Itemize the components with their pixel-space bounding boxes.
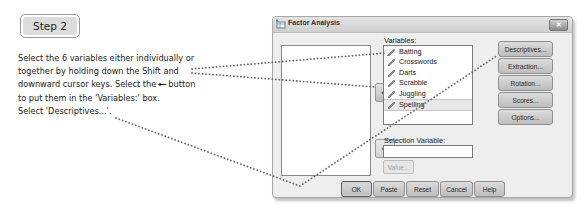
extraction-button[interactable]: Extraction... xyxy=(498,58,553,74)
variable-name: Batting xyxy=(399,47,421,56)
ok-label: OK xyxy=(352,186,362,193)
instruction-line-4: to put them in the 'Variables:' box. xyxy=(18,92,218,105)
variables-list[interactable]: Batting Crosswords Darts Scrabble Juggli… xyxy=(383,45,473,125)
scale-variable-icon xyxy=(387,89,396,98)
factor-analysis-icon xyxy=(276,19,286,29)
variable-item-scrabble[interactable]: Scrabble xyxy=(384,78,472,89)
instruction-line-2: together by holding down the Shift and xyxy=(18,65,218,78)
scale-variable-icon xyxy=(387,100,396,109)
variable-item-darts[interactable]: Darts xyxy=(384,67,472,78)
scale-variable-icon xyxy=(387,78,396,87)
variable-item-spelling[interactable]: Spelling xyxy=(384,99,472,112)
options-button[interactable]: Options... xyxy=(498,109,553,125)
descriptives-label: Descriptives... xyxy=(505,46,546,53)
variable-item-juggling[interactable]: Juggling xyxy=(384,88,472,99)
cancel-button[interactable]: Cancel xyxy=(440,181,473,197)
instruction-line-5: Select 'Descriptives...'. xyxy=(18,105,218,118)
rotation-button[interactable]: Rotation... xyxy=(498,75,553,91)
variable-name: Crosswords xyxy=(399,57,437,66)
variable-item-batting[interactable]: Batting xyxy=(384,46,472,57)
variable-item-crosswords[interactable]: Crosswords xyxy=(384,57,472,68)
instruction-line-3-suffix: button xyxy=(168,79,195,89)
close-icon: ✕ xyxy=(556,21,562,28)
paste-button[interactable]: Paste xyxy=(373,181,405,197)
instruction-line-3-text: downward cursor keys. Select the xyxy=(18,79,156,89)
scale-variable-icon xyxy=(387,57,396,66)
source-variable-list[interactable] xyxy=(281,45,371,176)
instruction-line-3: downward cursor keys. Select the ← butto… xyxy=(18,78,218,91)
enter-arrow-icon: ← xyxy=(158,78,167,91)
reset-button[interactable]: Reset xyxy=(406,181,439,197)
descriptives-button[interactable]: Descriptives... xyxy=(498,41,553,57)
ok-button[interactable]: OK xyxy=(341,181,372,197)
rotation-label: Rotation... xyxy=(510,80,540,87)
step-badge: Step 2 xyxy=(20,14,80,38)
step-label: Step 2 xyxy=(23,17,77,35)
selection-variable-field[interactable] xyxy=(383,145,473,158)
factor-analysis-dialog: Factor Analysis ✕ ↵ ↵ Variables: Batting… xyxy=(272,16,573,198)
scale-variable-icon xyxy=(387,47,396,56)
instructions-text: Select the 6 variables either individual… xyxy=(18,52,218,118)
extraction-label: Extraction... xyxy=(508,63,543,70)
selection-variable-label: Selection Variable: xyxy=(384,136,445,145)
cancel-label: Cancel xyxy=(446,186,467,193)
reset-label: Reset xyxy=(414,186,431,193)
help-label: Help xyxy=(483,186,497,193)
paste-label: Paste xyxy=(381,186,398,193)
title-bar[interactable]: Factor Analysis ✕ xyxy=(273,17,572,33)
value-button[interactable]: Value... xyxy=(383,160,414,174)
variable-name: Juggling xyxy=(399,89,426,98)
scores-button[interactable]: Scores... xyxy=(498,92,553,108)
close-button[interactable]: ✕ xyxy=(549,19,568,31)
help-button[interactable]: Help xyxy=(474,181,505,197)
options-label: Options... xyxy=(511,114,539,121)
instruction-line-1: Select the 6 variables either individual… xyxy=(18,52,218,65)
scores-label: Scores... xyxy=(512,97,538,104)
dialog-title: Factor Analysis xyxy=(288,19,340,26)
variable-name: Scrabble xyxy=(399,78,427,87)
scale-variable-icon xyxy=(387,68,396,77)
variable-name: Darts xyxy=(399,68,416,77)
variable-name: Spelling xyxy=(399,100,425,109)
variables-label: Variables: xyxy=(384,36,416,45)
